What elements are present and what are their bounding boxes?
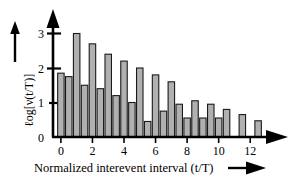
chart-canvas: ℓog[ν(t/T)] 3 2 1 0 024681	[0, 0, 298, 182]
y-axis-label-text: ℓog[ν(t/T)]	[22, 74, 36, 127]
y-tick-label-1: 1	[38, 96, 44, 110]
x-tick-label-0: 0	[58, 144, 64, 158]
bar	[89, 44, 95, 137]
xlabel-arrow-icon	[228, 162, 266, 175]
y-tick-label-3: 3	[38, 27, 44, 41]
bar	[81, 85, 87, 137]
bar	[58, 73, 64, 137]
y-tick-label-0: 0	[38, 131, 44, 145]
ylabel-arrow-icon	[10, 21, 20, 62]
y-axis-arrow-icon	[47, 9, 60, 28]
bar	[200, 118, 206, 137]
bar	[152, 75, 158, 137]
bar	[160, 111, 166, 137]
y-axis-label: ℓog[ν(t/T)]	[22, 74, 36, 127]
x-tick-label-8: 8	[184, 144, 190, 158]
x-tick-label-2: 2	[89, 144, 95, 158]
bar	[176, 104, 182, 137]
bar	[239, 115, 245, 137]
bar	[113, 96, 119, 137]
bar	[208, 104, 214, 137]
bar	[144, 121, 150, 137]
x-axis-label: Normalized interevent interval (t/T)	[34, 161, 213, 175]
bar	[66, 77, 72, 137]
x-tick-label-4: 4	[121, 144, 127, 158]
bar	[223, 109, 229, 137]
x-axis-arrow-icon	[266, 130, 288, 144]
bar	[121, 61, 127, 137]
bar	[129, 103, 135, 138]
bar	[192, 101, 198, 137]
bar	[105, 54, 111, 137]
bar	[97, 89, 103, 137]
bar	[215, 118, 221, 137]
x-tick-label-12: 12	[244, 144, 256, 158]
histogram-figure: ℓog[ν(t/T)] 3 2 1 0 024681	[0, 0, 298, 182]
bar-series	[58, 34, 262, 138]
bar	[255, 121, 261, 137]
bar	[184, 118, 190, 137]
y-tick-label-2: 2	[38, 62, 44, 76]
bar	[73, 34, 79, 138]
y-tick-labels: 3 2 1 0	[38, 27, 44, 145]
bar	[168, 82, 174, 137]
x-tick-label-10: 10	[213, 144, 225, 158]
x-tick-labels: 024681012	[58, 144, 256, 158]
x-tick-label-6: 6	[153, 144, 159, 158]
bar	[137, 68, 143, 137]
